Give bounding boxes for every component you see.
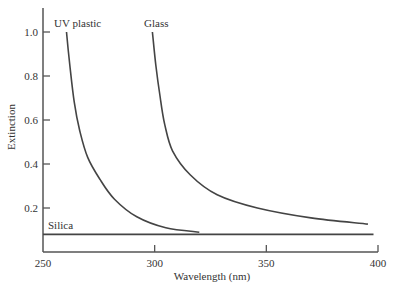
series-lines [43,32,374,234]
y-axis-label: Extinction [5,104,17,150]
y-tick-label: 1.0 [24,26,38,38]
series-label-uv-plastic: UV plastic [54,17,101,29]
series-line-uv-plastic [67,32,200,232]
y-tick-label: 0.6 [24,114,38,126]
y-tick-label: 0.2 [24,202,38,214]
line-chart: 0.20.40.60.81.0 250300350400 UV plastic … [0,0,393,293]
y-tick-label: 0.8 [24,70,38,82]
x-ticks: 250300350400 [35,245,387,269]
x-tick-label: 300 [146,257,163,269]
series-line-glass [152,32,368,224]
series-label-glass: Glass [144,17,168,29]
axes: 0.20.40.60.81.0 250300350400 [24,8,387,269]
y-ticks: 0.20.40.60.81.0 [24,26,50,214]
x-tick-label: 350 [258,257,275,269]
x-axis-label: Wavelength (nm) [174,270,251,283]
y-tick-label: 0.4 [24,158,38,170]
x-tick-label: 400 [370,257,387,269]
series-label-silica: Silica [48,219,73,231]
x-tick-label: 250 [35,257,52,269]
series-labels: UV plastic Glass Silica [48,17,168,231]
